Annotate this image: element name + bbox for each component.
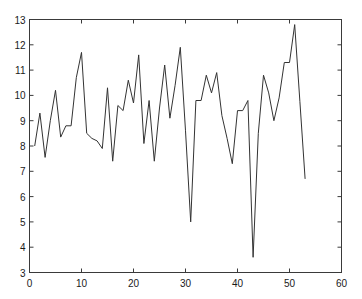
- y-tick-label: 7: [20, 166, 26, 177]
- x-tick-label: 30: [180, 278, 192, 289]
- x-tick-label: 50: [284, 278, 296, 289]
- y-tick-label: 13: [14, 15, 26, 26]
- line-chart: 0102030405060 345678910111213: [0, 0, 362, 299]
- y-tick-label: 12: [14, 40, 26, 51]
- y-tick-label: 4: [20, 242, 26, 253]
- axes-box: [30, 20, 342, 273]
- y-tick-label: 3: [20, 268, 26, 279]
- y-axis: 345678910111213: [14, 15, 341, 279]
- x-tick-label: 0: [27, 278, 33, 289]
- y-tick-label: 9: [20, 116, 26, 127]
- y-tick-label: 10: [14, 90, 26, 101]
- x-tick-label: 10: [76, 278, 88, 289]
- x-tick-label: 60: [336, 278, 348, 289]
- x-tick-label: 40: [232, 278, 244, 289]
- y-tick-label: 8: [20, 141, 26, 152]
- x-tick-label: 20: [128, 278, 140, 289]
- y-tick-label: 11: [15, 65, 26, 76]
- y-tick-label: 5: [20, 217, 26, 228]
- data-series-line: [35, 25, 305, 258]
- y-tick-label: 6: [20, 192, 26, 203]
